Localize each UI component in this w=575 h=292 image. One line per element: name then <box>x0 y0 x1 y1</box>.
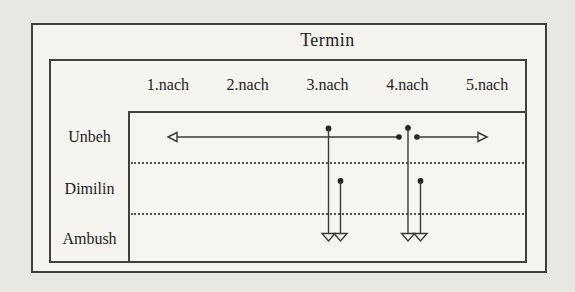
row-label-unbeh: Unbeh <box>51 111 128 163</box>
figure-title: Termin <box>128 29 527 51</box>
row-separator-unbeh-dimilin <box>131 162 524 164</box>
figure-canvas: Termin 1.nach 2.nach 3.nach 4.nach 5.nac… <box>0 0 575 292</box>
column-header-row: 1.nach 2.nach 3.nach 4.nach 5.nach <box>128 60 527 110</box>
column-header-1nach: 1.nach <box>128 76 208 94</box>
row-label-ambush: Ambush <box>51 214 128 263</box>
row-separator-dimilin-ambush <box>131 213 524 215</box>
row-label-dimilin: Dimilin <box>51 163 128 214</box>
column-header-4nach: 4.nach <box>367 76 447 94</box>
plot-area <box>128 111 527 263</box>
column-header-2nach: 2.nach <box>208 76 288 94</box>
column-header-5nach: 5.nach <box>447 76 527 94</box>
treatment-label-column: Unbeh Dimilin Ambush <box>51 111 128 263</box>
column-header-3nach: 3.nach <box>288 76 368 94</box>
